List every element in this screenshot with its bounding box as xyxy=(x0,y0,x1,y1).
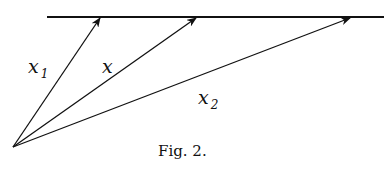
vector-x-arrow xyxy=(13,18,196,147)
vector-x1-arrow xyxy=(13,18,100,147)
figure-caption: Fig. 2. xyxy=(158,142,207,160)
label-x2: x2 xyxy=(198,86,218,108)
label-x: x xyxy=(102,55,113,77)
vector-x2-arrow xyxy=(13,18,350,147)
label-x1: x1 xyxy=(28,55,48,77)
